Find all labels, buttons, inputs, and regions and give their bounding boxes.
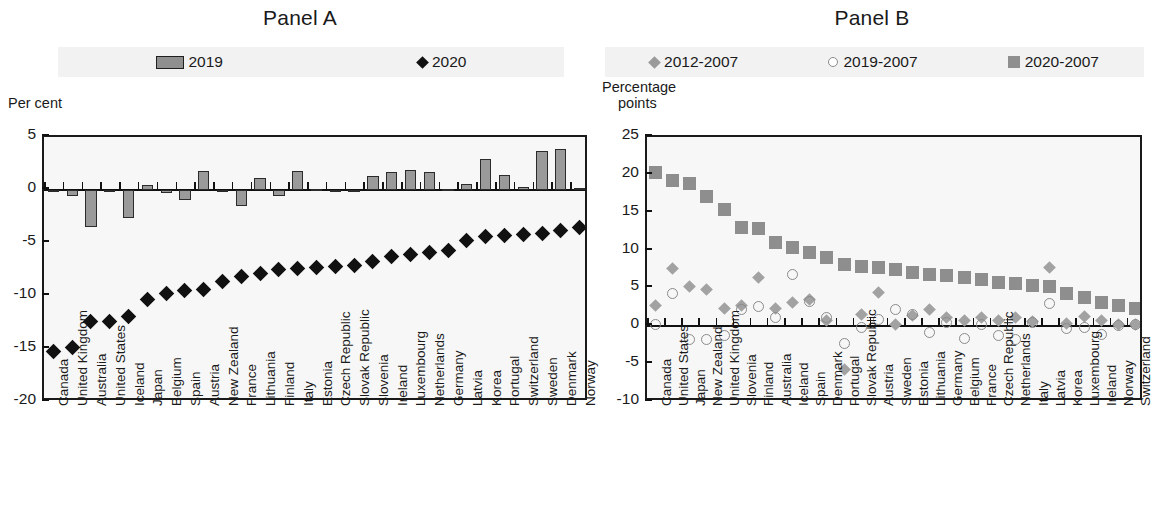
x-axis-label: Lithuania <box>263 351 278 406</box>
x-axis-label: Iceland <box>796 362 811 406</box>
x-axis-label: Germany <box>950 350 965 406</box>
x-axis-label: Portugal <box>507 356 522 406</box>
x-axis-label: Estonia <box>320 361 335 406</box>
x-axis-label: Norway <box>1121 360 1136 406</box>
marker-2020-France <box>234 269 250 285</box>
y-tick-label: 25 <box>605 125 639 143</box>
marker-2020-2007-Slovenia <box>735 221 748 234</box>
x-tick-mark <box>973 318 975 326</box>
bar-2019-New Zealand <box>217 190 228 192</box>
x-axis-label: Belgium <box>967 357 982 406</box>
x-tick-mark <box>100 182 102 190</box>
x-axis-label: Slovak Republic <box>864 309 879 406</box>
x-axis-label: Portugal <box>847 356 862 406</box>
marker-2020-2007-New Zealand <box>700 190 713 203</box>
marker-2020-Italy <box>290 261 306 277</box>
bar-2019-Czech Republic <box>330 190 341 192</box>
x-axis-label: Finland <box>282 362 297 406</box>
x-axis-label: Japan <box>150 369 165 406</box>
y-tick-mark <box>645 399 652 401</box>
x-tick-mark <box>1127 318 1129 326</box>
bar-2019-Norway <box>574 188 585 190</box>
y-tick-label: 0 <box>2 178 36 196</box>
y-tick-label: -15 <box>2 337 36 355</box>
x-tick-mark <box>119 182 121 190</box>
marker-2020-2007-Luxembourg <box>1078 291 1091 304</box>
panel-b-axis-caption-line2: points <box>618 96 657 111</box>
legend-item-2019-2007: 2019-2007 <box>828 53 917 71</box>
x-axis-label: Latvia <box>470 370 485 406</box>
x-tick-mark <box>157 182 159 190</box>
panel-a-title: Panel A <box>0 6 600 30</box>
x-axis-label: New Zealand <box>226 326 241 406</box>
marker-2020-Switzerland <box>515 227 531 243</box>
marker-2020-Belgium <box>158 286 174 302</box>
x-tick-mark <box>990 318 992 326</box>
marker-2020-2007-Norway <box>1112 299 1125 312</box>
y-tick-mark <box>645 172 652 174</box>
marker-2012-2007-Canada <box>649 299 662 312</box>
x-tick-mark <box>750 318 752 326</box>
x-axis-label: Korea <box>489 370 504 406</box>
marker-2020-Latvia <box>459 233 475 249</box>
x-axis-label: Spain <box>188 371 203 406</box>
x-axis-label: Czech Republic <box>338 311 353 406</box>
marker-2019-2007-Latvia <box>1044 298 1055 309</box>
x-axis-label: Czech Republic <box>1001 311 1016 406</box>
legend-item-2020-2007: 2020-2007 <box>1008 53 1099 71</box>
marker-2020-Netherlands <box>421 245 437 261</box>
marker-2019-2007-Australia <box>770 312 781 323</box>
x-tick-mark <box>194 182 196 190</box>
x-tick-mark <box>853 318 855 326</box>
x-tick-mark <box>439 182 441 190</box>
bar-2019-France <box>236 190 247 206</box>
x-axis-label: Slovenia <box>376 354 391 406</box>
y-tick-mark <box>42 134 49 136</box>
bar-2019-Lithuania <box>254 178 265 190</box>
y-tick-mark <box>42 240 49 242</box>
marker-2020-Germany <box>440 243 456 259</box>
x-axis-label: Estonia <box>916 361 931 406</box>
x-axis-label: Slovak Republic <box>357 309 372 406</box>
x-axis-label: Germany <box>451 350 466 406</box>
marker-2020-Austria <box>196 282 212 298</box>
marker-2020-2007-Slovak Republic <box>855 260 868 273</box>
bar-2019-Australia <box>85 190 96 227</box>
x-axis-label: Ireland <box>395 365 410 406</box>
marker-2020-Korea <box>478 229 494 245</box>
legend-label-2019: 2019 <box>189 53 223 71</box>
bar-2019-Finland <box>273 190 284 196</box>
marker-2012-2007-Japan <box>683 280 696 293</box>
marker-2019-2007-Norway <box>1113 320 1124 331</box>
y-tick-mark <box>645 323 652 325</box>
marker-2020-2007-Belgium <box>958 271 971 284</box>
x-tick-mark <box>955 318 957 326</box>
x-axis-label: Sweden <box>899 357 914 406</box>
marker-2020-2007-Japan <box>683 177 696 190</box>
bar-2019-Portugal <box>499 175 510 190</box>
marker-2012-2007-Finland <box>752 271 765 284</box>
x-axis-label: Lithuania <box>933 351 948 406</box>
x-axis-label: Slovenia <box>744 354 759 406</box>
marker-2020-Estonia <box>309 260 325 276</box>
x-axis-label: United Kingdom <box>75 310 90 406</box>
y-tick-label: -20 <box>2 390 36 408</box>
y-tick-mark <box>645 210 652 212</box>
x-axis-label: United States <box>676 325 691 406</box>
bar-2019-Netherlands <box>424 172 435 190</box>
x-tick-mark <box>176 182 178 190</box>
marker-2012-2007-New Zealand <box>701 284 714 297</box>
marker-2019-2007-Lithuania <box>924 327 935 338</box>
x-axis-label: Switzerland <box>526 336 541 406</box>
x-tick-mark <box>270 182 272 190</box>
x-tick-mark <box>326 182 328 190</box>
marker-2020-2007-Ireland <box>1095 296 1108 309</box>
x-axis-label: Netherlands <box>432 333 447 406</box>
legend-item-2020: 2020 <box>418 53 466 71</box>
marker-2020-2007-Spain <box>803 246 816 259</box>
marker-2019-2007-Finland <box>753 301 764 312</box>
y-tick-mark <box>42 399 49 401</box>
marker-2020-Finland <box>271 262 287 278</box>
x-axis-label: Spain <box>813 371 828 406</box>
marker-2020-Spain <box>177 283 193 299</box>
